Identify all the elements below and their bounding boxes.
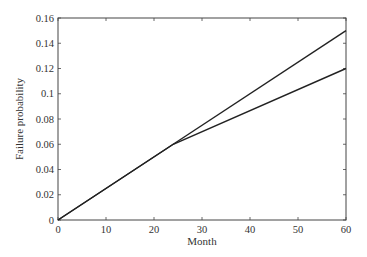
x-tick-label: 60 xyxy=(341,224,352,235)
y-tick-label: 0 xyxy=(49,215,54,226)
y-tick-label: 0.06 xyxy=(36,139,54,150)
y-tick-label: 0.1 xyxy=(41,88,54,99)
x-tick-label: 0 xyxy=(55,224,60,235)
axes: 010203040506000.020.040.060.080.10.120.1… xyxy=(36,13,352,236)
series-lines xyxy=(58,31,346,220)
x-tick-label: 20 xyxy=(149,224,160,235)
x-tick-label: 50 xyxy=(293,224,304,235)
x-tick-label: 40 xyxy=(245,224,256,235)
y-tick-label: 0.02 xyxy=(36,189,54,200)
y-tick-label: 0.16 xyxy=(36,13,54,24)
y-tick-label: 0.14 xyxy=(36,38,55,49)
y-tick-label: 0.12 xyxy=(36,63,54,74)
x-tick-label: 30 xyxy=(197,224,208,235)
series-line-lower xyxy=(58,69,346,221)
y-tick-label: 0.04 xyxy=(36,164,55,175)
y-tick-label: 0.08 xyxy=(36,114,54,125)
plot-frame xyxy=(58,18,346,220)
line-chart: 010203040506000.020.040.060.080.10.120.1… xyxy=(0,0,367,257)
x-tick-label: 10 xyxy=(101,224,112,235)
y-axis-label: Failure probability xyxy=(13,77,25,160)
x-axis-label: Month xyxy=(187,235,217,247)
